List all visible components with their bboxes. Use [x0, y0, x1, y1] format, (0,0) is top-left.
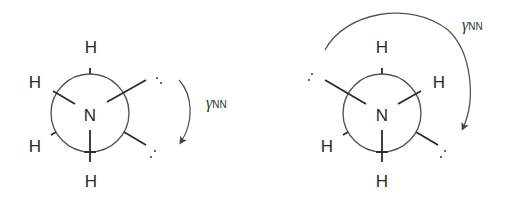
- left-back-bond-lower-left: [51, 132, 56, 135]
- right-hydrogen-top: H: [376, 38, 388, 57]
- right-back-bond-lower-left: [343, 132, 348, 135]
- right-back-bond-lower-right: [416, 132, 438, 145]
- right-center-nitrogen: N: [376, 106, 388, 125]
- left-lone-pair-front: [156, 77, 162, 84]
- right-torsion-arrow: [325, 13, 470, 128]
- left-lone-pair-back: [150, 150, 156, 158]
- left-newman-projection: N H H H H γNN: [29, 38, 227, 191]
- right-torsion-label: γNN: [462, 16, 483, 34]
- right-hydrogen-bottom: H: [376, 172, 388, 191]
- left-hydrogen-lower-left: H: [29, 137, 41, 156]
- left-center-nitrogen: N: [84, 106, 96, 125]
- left-hydrogen-top: H: [85, 38, 97, 57]
- right-hydrogen-upper-right: H: [433, 73, 445, 92]
- right-lone-pair-back: [440, 150, 446, 158]
- newman-projections-diagram: N H H H H γNN N H H H: [0, 0, 512, 198]
- left-torsion-arrow: [179, 80, 190, 142]
- right-newman-projection: N H H H H γNN: [308, 13, 483, 191]
- left-hydrogen-bottom: H: [85, 172, 97, 191]
- left-torsion-label: γNN: [206, 94, 227, 112]
- left-hydrogen-upper-left: H: [29, 73, 41, 92]
- right-lone-pair-front: [308, 73, 313, 81]
- left-back-bond-lower-right: [124, 132, 146, 145]
- right-hydrogen-lower-left: H: [321, 137, 333, 156]
- left-front-bond-upper-left: [53, 91, 75, 104]
